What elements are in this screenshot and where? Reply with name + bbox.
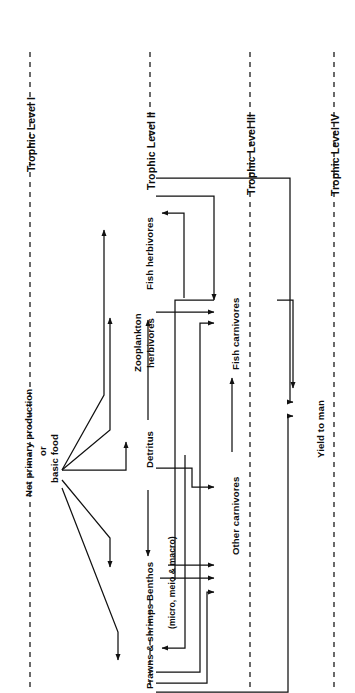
trophic-level-3-label: Trophic Level III xyxy=(246,114,257,195)
source-line-1: Net primary production xyxy=(24,389,34,497)
node-other-carnivores: Other carnivores xyxy=(231,477,241,555)
trophic-level-4-label: Trophic Level IV xyxy=(330,114,341,196)
node-zooplankton-line-1: Zooplankton xyxy=(133,313,143,372)
flow-source-to-zooplankton xyxy=(62,318,110,470)
flow-benthos-to-fish-carnivores-seg xyxy=(175,300,214,580)
diagram-canvas: Trophic Level I Trophic Level II Trophic… xyxy=(0,0,355,693)
flow-source-to-detritus xyxy=(62,442,126,470)
flow-fish-herbivores-to-fish-carnivores xyxy=(156,196,214,300)
flow-source-to-benthos xyxy=(62,480,110,567)
trophic-level-1-label: Trophic Level I xyxy=(26,97,37,172)
flow-source-to-fish-herbivores xyxy=(62,230,104,470)
node-detritus: Detritus xyxy=(145,431,155,468)
node-zooplankton-line-2: herbivores xyxy=(146,318,156,368)
node-prawns-shrimps: Prawns & shrimps xyxy=(145,604,155,689)
node-fish-carnivores: Fish carnivores xyxy=(231,298,241,370)
trophic-level-2-label: Trophic Level II xyxy=(146,112,157,190)
node-fish-herbivores: Fish herbivores xyxy=(145,217,155,290)
node-benthos-note: (micro, meio & macro) xyxy=(168,536,177,629)
flow-zooplankton-to-fish-herbivores xyxy=(162,213,184,298)
node-benthos: Benthos xyxy=(145,562,155,601)
source-line-3: basic food xyxy=(50,434,60,483)
node-yield-to-man: Yield to man xyxy=(316,400,326,458)
flow-fish-herbivores-to-yield xyxy=(156,178,293,402)
flow-lines-layer xyxy=(0,0,355,693)
source-line-2: or xyxy=(38,446,48,456)
